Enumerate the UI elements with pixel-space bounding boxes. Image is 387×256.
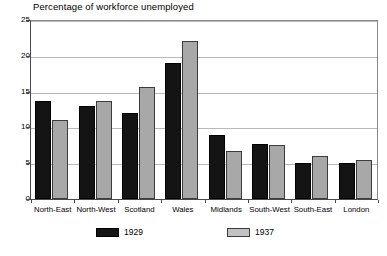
bar-north-west-1929 [79,106,95,199]
x-axis-label-south-east: South-East [291,205,334,214]
bar-north-west-1937 [96,101,112,199]
bar-wales-1929 [165,63,181,199]
x-axis-labels: North-EastNorth-WestScotlandWalesMidland… [31,203,378,217]
bar-south-east-1929 [295,163,311,199]
x-axis-tick-mark [248,200,249,203]
chart-legend: 19291937 [0,228,387,244]
bar-london-1929 [339,163,355,199]
bar-south-west-1929 [252,144,268,199]
bar-north-east-1929 [35,101,51,199]
unemployment-bar-chart: Percentage of workforce unemployed 05101… [0,0,387,256]
x-axis-tick-mark [378,200,379,203]
x-axis-label-wales: Wales [161,205,204,214]
x-axis-label-london: London [335,205,378,214]
legend-label-1929: 1929 [124,228,143,237]
bar-north-east-1937 [52,120,68,199]
bar-midlands-1929 [209,135,225,199]
bar-midlands-1937 [226,151,242,199]
chart-title: Percentage of workforce unemployed [33,1,194,13]
x-axis-label-north-east: North-East [31,205,74,214]
x-axis-label-north-west: North-West [74,205,117,214]
x-axis-tick-mark [335,200,336,203]
bar-wales-1937 [182,41,198,199]
x-axis-tick-mark [291,200,292,203]
bar-south-west-1937 [269,145,285,199]
x-axis-tick-mark [74,200,75,203]
x-axis-tick-mark [161,200,162,203]
legend-item-1937: 1937 [227,228,274,237]
bar-scotland-1929 [122,113,138,199]
legend-swatch-1937 [227,228,250,237]
x-axis-label-midlands: Midlands [205,205,248,214]
bar-south-east-1937 [312,156,328,199]
x-axis-tick-mark [118,200,119,203]
bars-layer [31,20,378,199]
x-axis-tick-mark [205,200,206,203]
bar-london-1937 [356,160,372,199]
x-axis-label-scotland: Scotland [118,205,161,214]
legend-swatch-1929 [96,228,119,237]
x-axis-label-south-west: South-West [248,205,291,214]
legend-label-1937: 1937 [255,228,274,237]
bar-scotland-1937 [139,87,155,199]
x-axis-tick-mark [31,200,32,203]
y-axis: 0510152025 [0,20,30,200]
legend-item-1929: 1929 [96,228,143,237]
